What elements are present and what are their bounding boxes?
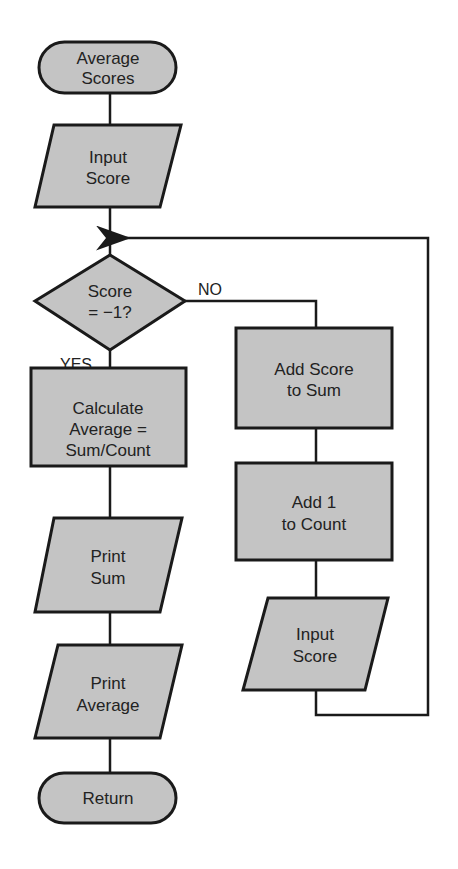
node-label: Add 1 [292,493,336,512]
node-label: to Count [282,515,347,534]
node-input-score-loop: Input Score [243,598,388,690]
node-return-terminal: Return [39,773,176,823]
node-input-score: Input Score [35,125,181,207]
node-label: Average [76,696,139,715]
edge-label-no: NO [198,281,222,298]
node-label: Score [293,647,337,666]
node-decision-diamond: Score = −1? [35,255,185,350]
node-label: Print [91,674,126,693]
node-label: Average = [69,420,147,439]
node-label: Score [86,169,130,188]
node-label: Input [89,148,127,167]
node-label: Scores [82,69,135,88]
node-label: Calculate [73,399,144,418]
node-print-average: Print Average [35,645,182,738]
node-label: Return [82,789,133,808]
node-start-terminal: Average Scores [39,42,176,93]
node-add-one-to-count: Add 1 to Count [236,463,392,560]
node-add-score-to-sum: Add Score to Sum [236,328,392,428]
node-label: Add Score [274,360,353,379]
node-label: Sum [91,569,126,588]
node-label: Print [91,547,126,566]
edge-decision-addsum [185,301,316,328]
flowchart-canvas: Average Scores Input Score Score = −1? N… [0,0,458,869]
node-label: Average [76,49,139,68]
node-label: to Sum [287,381,341,400]
node-calculate-average: Calculate Average = Sum/Count [31,368,186,466]
node-label: Score [88,282,132,301]
node-label: Sum/Count [65,441,150,460]
node-print-sum: Print Sum [35,518,182,612]
node-label: Input [296,625,334,644]
node-label: = −1? [88,303,132,322]
